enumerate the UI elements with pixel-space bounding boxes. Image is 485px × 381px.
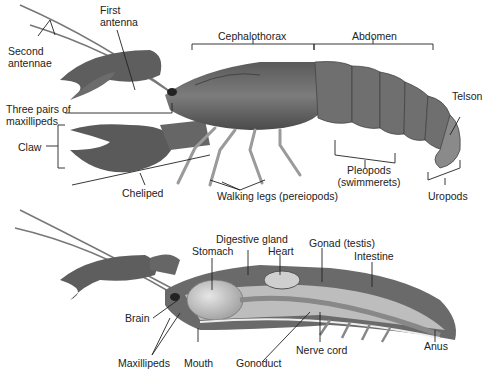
label-telson: Telson bbox=[452, 90, 482, 102]
label-mouth: Mouth bbox=[184, 357, 213, 369]
internal-crayfish bbox=[15, 210, 456, 342]
label-first-antenna: Firstantenna bbox=[100, 4, 138, 28]
label-anus: Anus bbox=[424, 340, 448, 352]
label-intestine: Intestine bbox=[354, 250, 394, 262]
label-cephalothorax: Cephalothorax bbox=[218, 30, 286, 42]
label-pleopods: Pleopods(swimmerets) bbox=[335, 164, 403, 188]
label-cheliped: Cheliped bbox=[122, 187, 163, 199]
label-abdomen: Abdomen bbox=[352, 30, 397, 42]
label-walking-legs: Walking legs (pereiopods) bbox=[217, 190, 338, 202]
label-stomach: Stomach bbox=[192, 245, 233, 257]
label-heart: Heart bbox=[268, 245, 294, 257]
label-maxillipeds: Maxillipeds bbox=[118, 357, 170, 369]
label-nerve-cord: Nerve cord bbox=[296, 344, 347, 356]
label-claw: Claw bbox=[18, 141, 41, 153]
label-uropods: Uropods bbox=[428, 190, 468, 202]
label-gonad: Gonad (testis) bbox=[309, 237, 375, 249]
label-second-antennae: Secondantennae bbox=[8, 45, 52, 69]
label-digestive-gland: Digestive gland bbox=[216, 233, 288, 245]
label-gonoduct: Gonoduct bbox=[236, 357, 282, 369]
label-brain: Brain bbox=[125, 312, 150, 324]
label-three-pairs-maxillipeds: Three pairs ofmaxillipeds bbox=[6, 103, 71, 127]
